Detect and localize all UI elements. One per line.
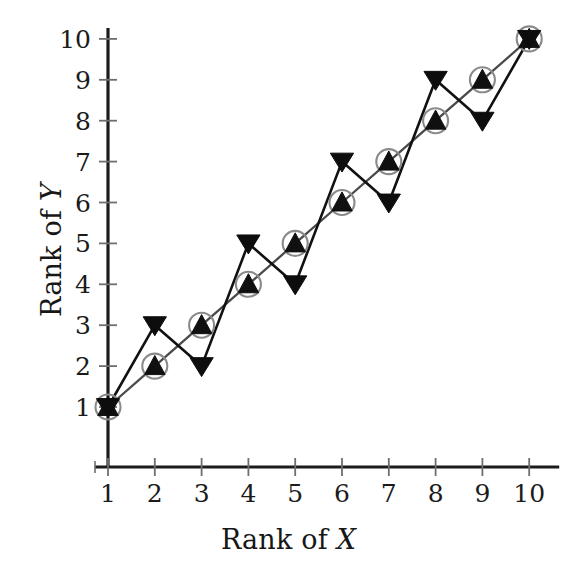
x-tick-label: 6 (334, 479, 350, 508)
y-axis-title-prefix: Rank of (36, 201, 67, 317)
x-axis-title-prefix: Rank of (221, 524, 337, 555)
y-tick-label: 1 (75, 393, 91, 422)
rank-scatter-plot: 12345678910 12345678910 (0, 0, 577, 578)
x-axis-title-variable: X (337, 524, 356, 555)
x-tick-label: 1 (100, 479, 116, 508)
x-axis-title: Rank of X (0, 524, 577, 555)
y-tick-label: 5 (75, 229, 91, 258)
x-tick-label: 7 (381, 479, 397, 508)
x-tick-label: 10 (513, 479, 545, 508)
y-axis-title-variable: Y (36, 183, 67, 201)
y-tick-label: 9 (75, 66, 91, 95)
x-tick-label: 3 (194, 479, 210, 508)
y-tick-label: 4 (75, 270, 91, 299)
y-tick-label: 2 (75, 352, 91, 381)
y-axis-title: Rank of Y (36, 20, 76, 480)
x-tick-label: 2 (147, 479, 163, 508)
x-tick-label: 4 (240, 479, 256, 508)
y-tick-label: 7 (75, 148, 91, 177)
chart-figure: 12345678910 12345678910 Rank of Y Rank o… (0, 0, 577, 578)
y-tick-label: 3 (75, 311, 91, 340)
y-tick-label: 6 (75, 189, 91, 218)
y-tick-label: 8 (75, 107, 91, 136)
x-tick-label: 9 (474, 479, 490, 508)
x-tick-label: 8 (428, 479, 444, 508)
x-tick-label: 5 (287, 479, 303, 508)
